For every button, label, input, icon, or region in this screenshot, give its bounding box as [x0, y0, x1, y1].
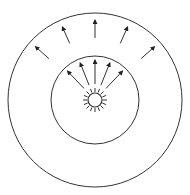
sun-ray [90, 107, 92, 111]
arrow-icon [141, 47, 154, 59]
sun-ray [90, 89, 92, 93]
outer-arrows [35, 20, 154, 59]
sun-ray [84, 103, 88, 105]
arrow-icon [62, 27, 69, 43]
sun-ray [101, 92, 104, 95]
sun-ray [84, 95, 88, 97]
sun-ray [102, 103, 106, 105]
inner-arrows [67, 60, 122, 88]
arrow-icon [67, 71, 84, 88]
arrow-icon [106, 71, 123, 88]
arrow-icon [80, 63, 89, 85]
sun-ray [98, 107, 100, 111]
sun-ray [98, 89, 100, 93]
sun-ray [87, 106, 90, 109]
arrow-icon [101, 63, 110, 85]
arrow-icon [35, 47, 48, 59]
sun-icon [83, 88, 107, 112]
sun-ray [87, 92, 90, 95]
arrow-icon [120, 27, 127, 43]
radiation-diagram [0, 0, 190, 195]
sun-ray [101, 106, 104, 109]
sun-ray [102, 95, 106, 97]
